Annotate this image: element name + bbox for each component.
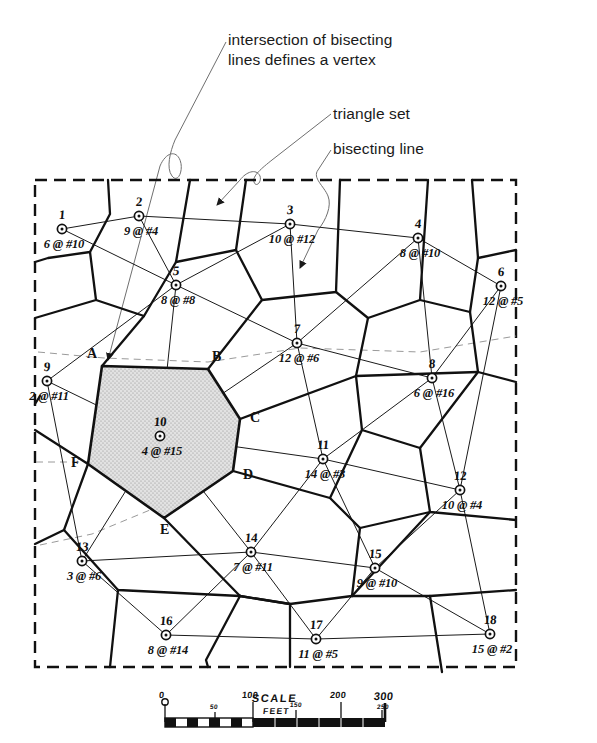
scale-tick-200: 200 — [329, 690, 346, 700]
diagram-page: intersection of bisecting lines defines … — [0, 0, 597, 743]
scale-tick-300: 300 — [373, 690, 394, 702]
scale-tick-250: 250 — [377, 703, 390, 710]
scale-tick-50: 50 — [210, 703, 219, 710]
scale-bar-graphic — [0, 0, 597, 743]
scale-tick-100: 100 — [241, 690, 258, 700]
scale-tick-150: 150 — [290, 701, 303, 708]
scale-tick-0: 0 — [158, 690, 164, 700]
